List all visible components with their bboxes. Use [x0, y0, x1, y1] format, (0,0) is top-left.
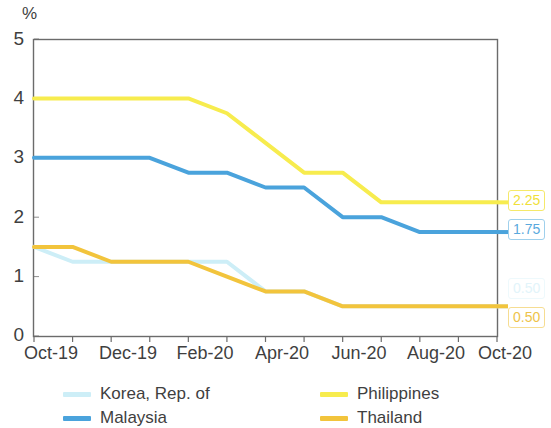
x-tick-label-oct-20: Oct-20 [463, 343, 547, 364]
legend-swatch-korea [63, 392, 91, 397]
end-label-malaysia: 1.75 [508, 219, 545, 240]
x-tick-label-oct-19: Oct-19 [9, 343, 93, 364]
y-axis-ticks [34, 39, 39, 336]
chart-legend: Korea, Rep. of Malaysia Philippines Thai… [0, 378, 551, 428]
end-label-philippines: 2.25 [508, 190, 545, 211]
interest-rate-line-chart: % 5 4 3 2 1 0 Oct-19 Dec-19 Feb-20 Apr-2… [0, 0, 551, 428]
legend-swatch-malaysia [63, 416, 91, 421]
x-tick-label-dec-19: Dec-19 [86, 343, 170, 364]
x-tick-label-jun-20: Jun-20 [317, 343, 401, 364]
legend-item-thailand: Thailand [320, 408, 422, 428]
legend-label-korea: Korea, Rep. of [100, 384, 210, 404]
legend-swatch-thailand [320, 416, 348, 421]
series-lines [34, 98, 508, 306]
legend-label-thailand: Thailand [357, 408, 422, 428]
legend-item-korea: Korea, Rep. of [63, 384, 210, 404]
x-tick-label-apr-20: Apr-20 [240, 343, 324, 364]
legend-swatch-philippines [320, 392, 348, 397]
end-label-korea: 0.50 [508, 278, 545, 299]
series-line-thailand [34, 247, 497, 306]
x-tick-label-feb-20: Feb-20 [163, 343, 247, 364]
series-line-malaysia [34, 158, 497, 232]
legend-item-malaysia: Malaysia [63, 408, 167, 428]
series-line-korea-rep-of [34, 247, 497, 306]
legend-label-malaysia: Malaysia [100, 408, 167, 428]
legend-label-philippines: Philippines [357, 384, 439, 404]
legend-item-philippines: Philippines [320, 384, 439, 404]
end-label-thailand: 0.50 [508, 307, 545, 328]
